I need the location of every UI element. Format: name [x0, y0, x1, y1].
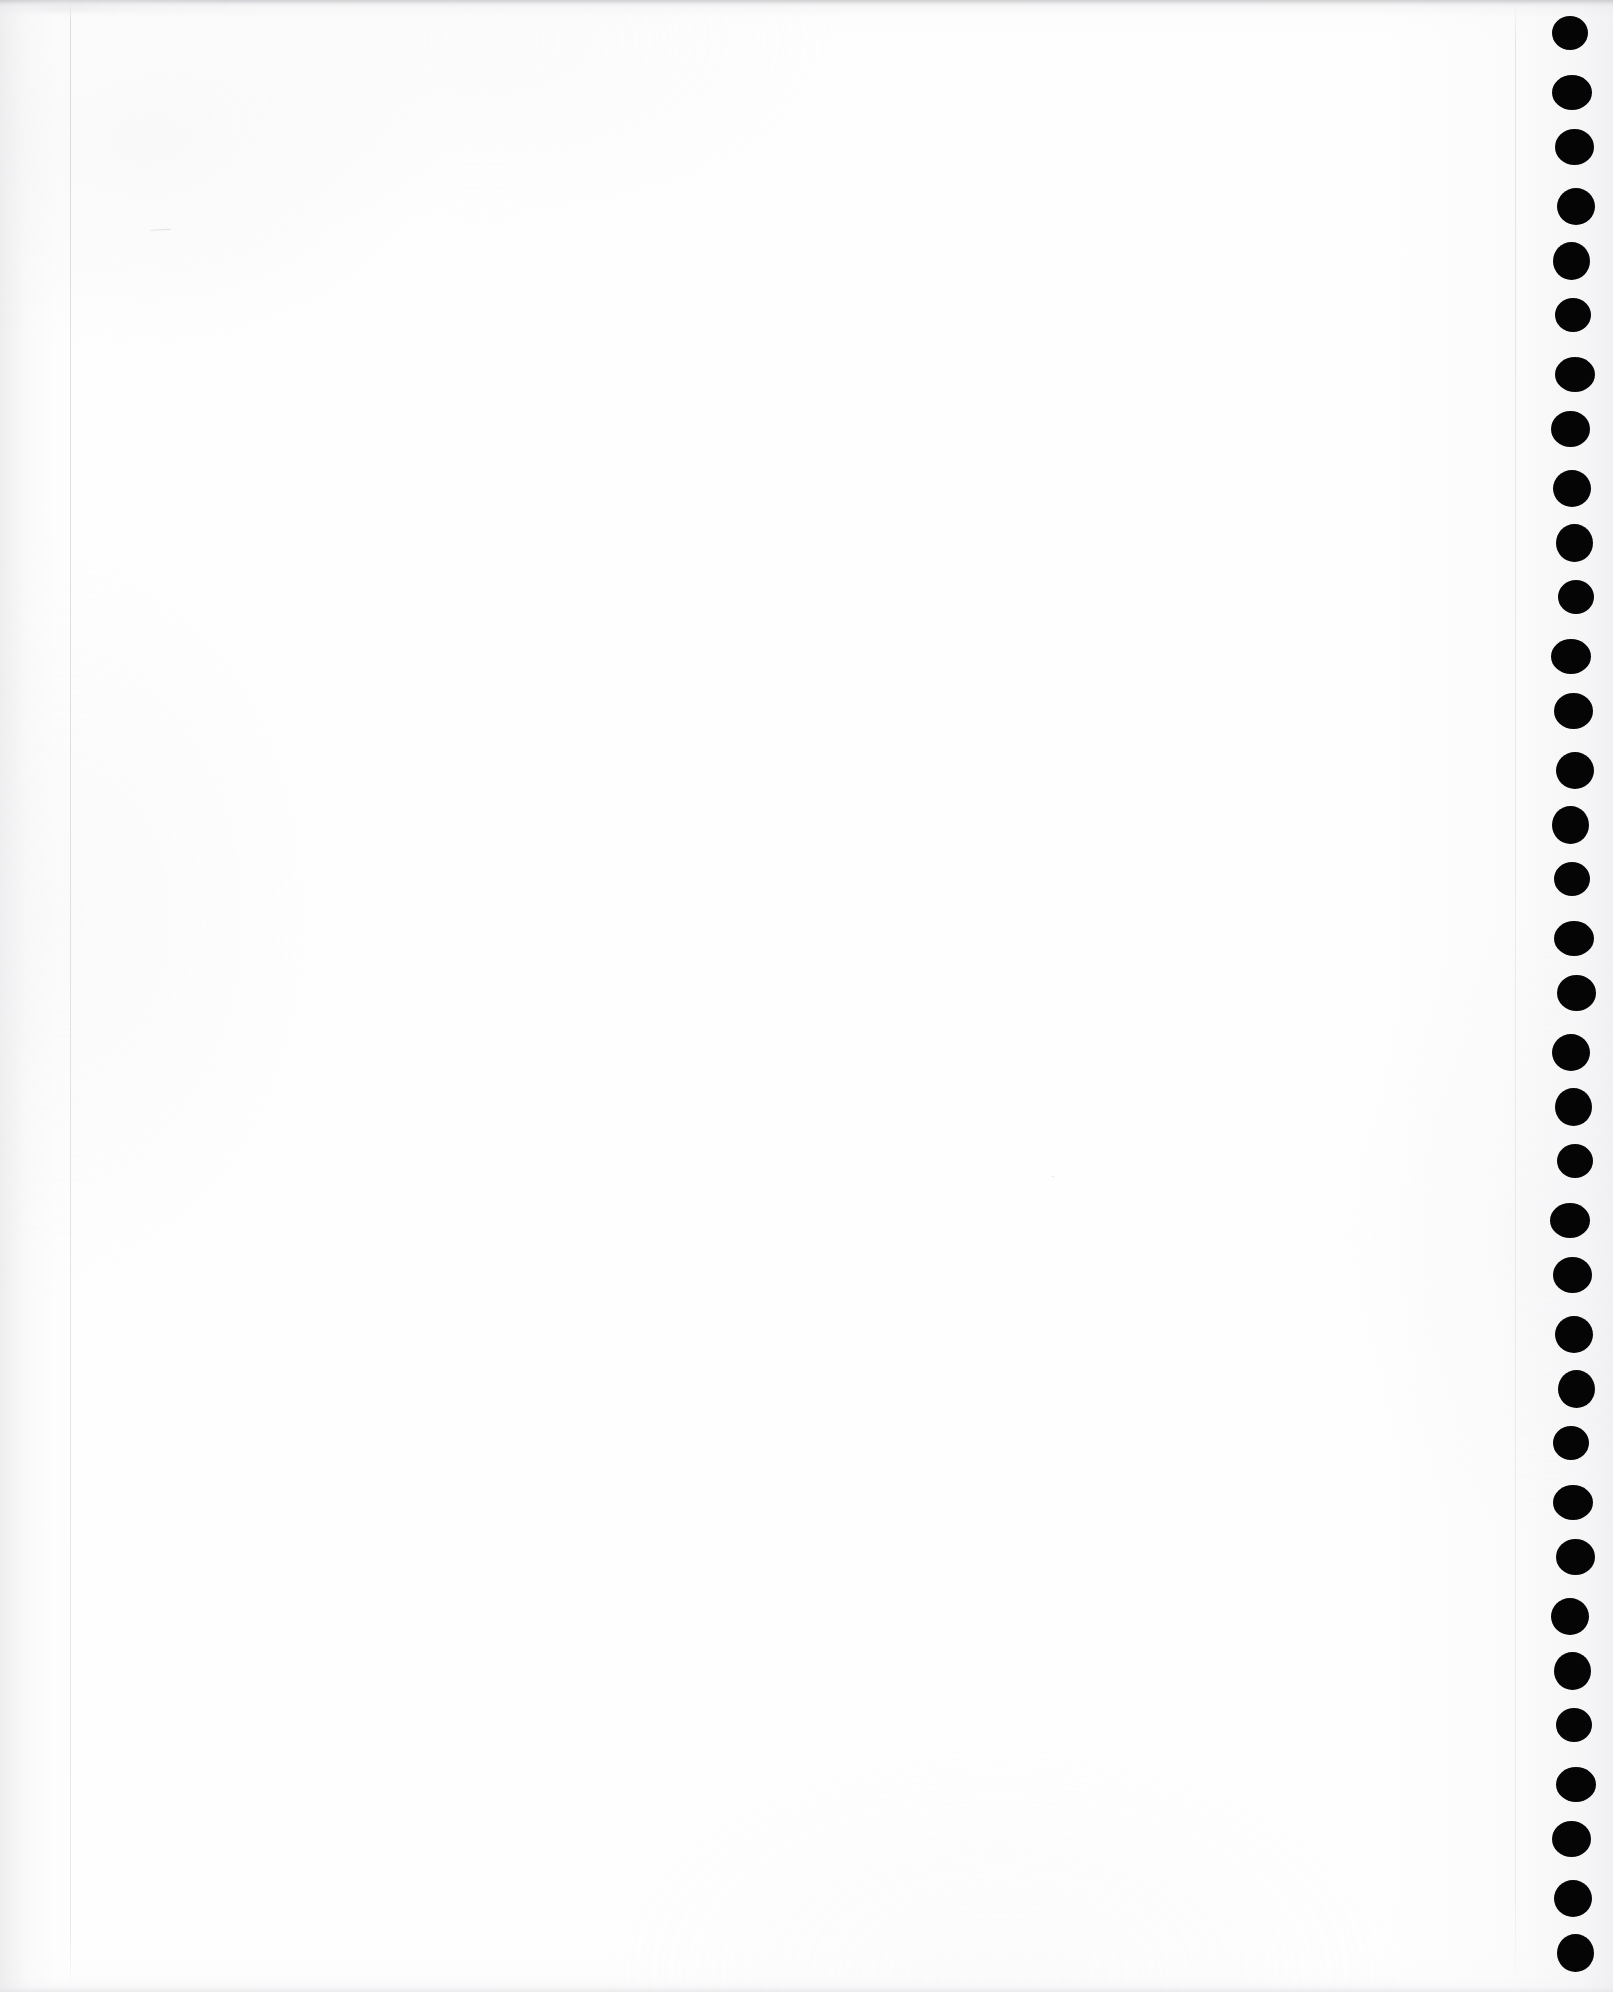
paper-sheet	[0, 0, 1613, 1992]
scanned-page-canvas: ⸺ ˜ Blank scanned notebook page with pun…	[0, 0, 1613, 1992]
bleed-through-band-upper	[0, 0, 230, 12]
